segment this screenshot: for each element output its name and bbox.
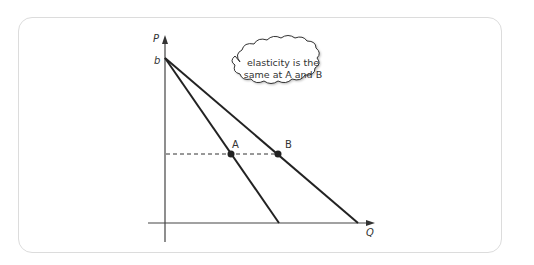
point-b-marker <box>275 151 282 158</box>
y-axis-label: P <box>153 33 160 44</box>
cloud-callout: elasticity is the same at A and B <box>232 36 322 84</box>
y-axis-arrow-icon <box>162 35 168 44</box>
callout-line-2: same at A and B <box>244 69 322 80</box>
callout-line-1: elasticity is the <box>247 57 319 68</box>
intercept-label: b <box>154 55 160 66</box>
point-b-label: B <box>285 139 292 150</box>
elasticity-diagram: P Q b A B elasticity is the same at A an… <box>0 0 534 265</box>
x-axis-arrow-icon <box>366 220 375 226</box>
x-axis-label: Q <box>366 227 374 238</box>
point-a-marker <box>228 151 235 158</box>
point-a-label: A <box>232 139 239 150</box>
